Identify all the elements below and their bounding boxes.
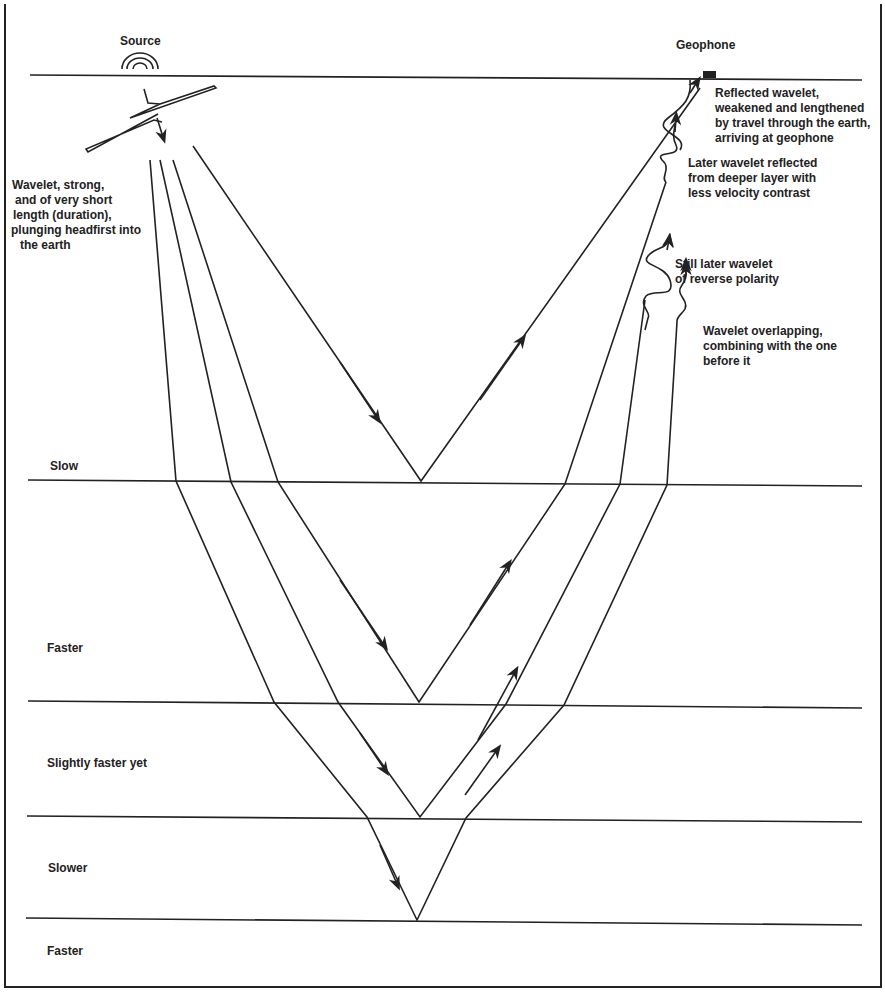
annotation-line: combining with the one xyxy=(703,339,837,354)
layer-label-faster: Faster xyxy=(47,641,83,656)
ray-reflect-interface-1 xyxy=(193,88,700,481)
annotation-line: from deeper layer with xyxy=(688,171,817,186)
source-icon xyxy=(122,53,158,69)
layer-label-slightly-faster-yet: Slightly faster yet xyxy=(47,756,147,771)
annotation-line: by travel through the earth, xyxy=(715,116,870,131)
annotation-line: the earth xyxy=(20,238,141,253)
source-label: Source xyxy=(120,34,161,49)
ray-reflect-interface-3 xyxy=(160,160,645,817)
source-wavelet-icon xyxy=(86,86,216,152)
geophone-icon xyxy=(703,71,716,78)
layer-label-slower: Slower xyxy=(48,861,87,876)
layer-label-slow: Slow xyxy=(50,459,78,474)
annotation-line: arriving at geophone xyxy=(715,131,870,146)
annotation-line: Wavelet overlapping, xyxy=(703,324,837,339)
interface-slow-faster xyxy=(28,480,862,486)
annotation-line: and of very short xyxy=(15,193,141,208)
interface-slower-faster xyxy=(26,918,862,925)
annotation-line: Still later wavelet xyxy=(675,257,779,272)
annotation-later-wavelet: Later wavelet reflected from deeper laye… xyxy=(688,156,817,201)
ray-reflect-interface-4 xyxy=(150,160,677,920)
layer-label-faster-bottom: Faster xyxy=(47,944,83,959)
interface-slightlyfaster-slower xyxy=(27,816,862,822)
annotation-line: Reflected wavelet, xyxy=(715,86,870,101)
annotation-line: Later wavelet reflected xyxy=(688,156,817,171)
annotation-overlapping-wavelet: Wavelet overlapping, combining with the … xyxy=(703,324,837,369)
annotation-line: Wavelet, strong, xyxy=(12,178,141,193)
annotation-line: weakened and lengthened xyxy=(715,101,870,116)
interface-faster-slightlyfaster xyxy=(28,701,862,708)
wavelet-reverse-polarity-icon xyxy=(643,238,671,330)
annotation-line: length (duration), xyxy=(13,208,141,223)
annotation-line: of reverse polarity xyxy=(675,272,779,287)
annotation-line: before it xyxy=(703,354,837,369)
annotation-source-wavelet: Wavelet, strong, and of very short lengt… xyxy=(12,178,141,253)
annotation-reverse-polarity: Still later wavelet of reverse polarity xyxy=(675,257,779,287)
annotation-line: less velocity contrast xyxy=(688,186,817,201)
ground-surface-line xyxy=(30,75,862,80)
geophone-label: Geophone xyxy=(676,38,735,53)
annotation-reflected-wavelet: Reflected wavelet, weakened and lengthen… xyxy=(715,86,870,146)
annotation-line: plunging headfirst into xyxy=(11,223,141,238)
wavelet-reflected-icon xyxy=(663,80,690,150)
wavelet-later-icon xyxy=(661,125,677,182)
seismic-reflection-diagram xyxy=(0,0,885,997)
